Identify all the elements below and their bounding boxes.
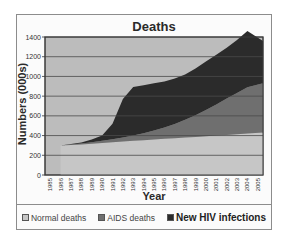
legend-label-aids: AIDS deaths — [107, 213, 155, 223]
y-axis-label: Numbers (000s) — [16, 54, 28, 154]
chart-plot: 0200400600800100012001400198519861987198… — [0, 0, 289, 240]
chart-legend: Normal deaths AIDS deaths New HIV infect… — [16, 205, 272, 230]
y-tick-label: 600 — [29, 112, 41, 119]
y-tick-label: 0 — [37, 172, 41, 179]
legend-label-normal: Normal deaths — [31, 213, 86, 223]
legend-item-new-hiv: New HIV infections — [167, 212, 266, 223]
x-axis-label: Year — [45, 190, 263, 202]
legend-item-aids-deaths: AIDS deaths — [98, 213, 155, 223]
y-tick-label: 200 — [29, 152, 41, 159]
chart-title: Deaths — [45, 19, 263, 34]
y-tick-label: 1400 — [25, 34, 41, 41]
y-tick-label: 800 — [29, 93, 41, 100]
legend-item-normal-deaths: Normal deaths — [22, 213, 86, 223]
legend-swatch-hiv — [167, 214, 174, 221]
legend-swatch-aids — [98, 214, 105, 221]
legend-swatch-normal — [22, 214, 29, 221]
legend-label-hiv: New HIV infections — [176, 212, 266, 223]
y-tick-label: 400 — [29, 132, 41, 139]
